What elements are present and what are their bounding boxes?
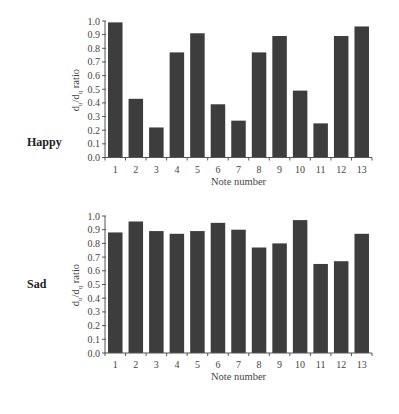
bar bbox=[231, 230, 246, 353]
x-tick-label: 4 bbox=[174, 359, 179, 370]
y-tick-label: 0.7 bbox=[88, 252, 101, 263]
y-tick-label: 0.0 bbox=[88, 348, 101, 359]
y-tick-label: 0.5 bbox=[88, 279, 101, 290]
y-tick-label: 0.9 bbox=[88, 224, 101, 235]
bar bbox=[272, 243, 287, 353]
x-axis-label: Note number bbox=[211, 371, 267, 382]
bar bbox=[108, 232, 123, 353]
x-tick-label: 12 bbox=[336, 359, 346, 370]
bar bbox=[129, 221, 144, 353]
x-tick-label: 7 bbox=[236, 359, 241, 370]
bar bbox=[170, 234, 185, 353]
x-tick-label: 6 bbox=[215, 359, 220, 370]
x-tick-label: 8 bbox=[257, 359, 262, 370]
x-tick-label: 11 bbox=[316, 359, 326, 370]
y-tick-label: 1.0 bbox=[88, 211, 101, 222]
bar bbox=[211, 223, 226, 353]
x-tick-label: 9 bbox=[277, 359, 282, 370]
y-tick-label: 0.1 bbox=[88, 334, 101, 345]
bar bbox=[149, 231, 164, 353]
bar bbox=[252, 248, 266, 353]
x-tick-label: 13 bbox=[357, 359, 367, 370]
x-tick-label: 3 bbox=[154, 359, 159, 370]
bar bbox=[190, 231, 205, 353]
sad-chart-panel: Sad du/dq ratio 0.00.10.20.30.40.50.60.7… bbox=[0, 0, 399, 414]
sad-bar-chart: 0.00.10.20.30.40.50.60.70.80.91.01234567… bbox=[0, 0, 399, 414]
x-tick-label: 1 bbox=[113, 359, 118, 370]
bar bbox=[354, 234, 369, 353]
x-tick-label: 2 bbox=[133, 359, 138, 370]
y-tick-label: 0.6 bbox=[88, 265, 101, 276]
bar bbox=[313, 264, 328, 353]
y-tick-label: 0.2 bbox=[88, 320, 101, 331]
bar bbox=[334, 261, 349, 353]
y-tick-label: 0.8 bbox=[88, 238, 101, 249]
y-tick-label: 0.3 bbox=[88, 306, 101, 317]
y-tick-label: 0.4 bbox=[88, 293, 101, 304]
bar bbox=[293, 220, 308, 353]
x-tick-label: 10 bbox=[295, 359, 305, 370]
x-tick-label: 5 bbox=[195, 359, 200, 370]
